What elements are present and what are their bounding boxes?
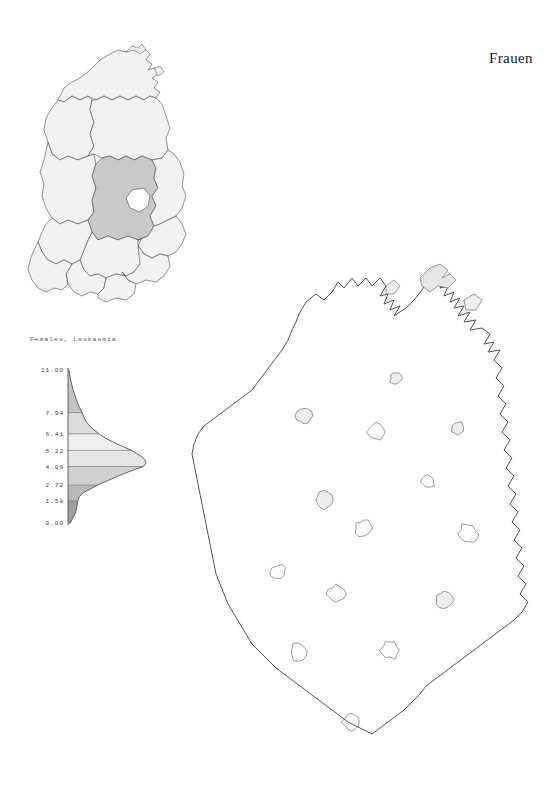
legend-tick-label: 7.94 [46, 410, 64, 417]
legend-tick-label: 6.41 [46, 431, 64, 438]
stadtkreis-enclave [295, 408, 313, 423]
legend-tick-label: 0.00 [46, 520, 64, 527]
legend-class-band-4 [68, 434, 132, 451]
inset-region-schwerin [44, 96, 94, 160]
legend-tick-label: 4.06 [46, 464, 64, 471]
figure-page: Frauen [0, 0, 557, 794]
national-border [192, 274, 528, 734]
stadtkreis-enclave [390, 373, 403, 384]
legend-tick-label: 2.72 [46, 482, 64, 489]
stadtkreis-enclave [341, 714, 359, 732]
stadtkreis-enclave [379, 642, 399, 660]
stadtkreis-enclave [326, 584, 347, 602]
stadtkreis-enclave [316, 490, 333, 510]
baltic-island [420, 264, 456, 292]
stadtkreis-enclave [458, 524, 480, 543]
legend-tick-label: 5.22 [46, 448, 64, 455]
kreis-polygons [270, 373, 479, 731]
stadtkreis-enclave [291, 643, 307, 662]
stadtkreis-enclave [367, 422, 386, 440]
legend-class-band-0 [68, 501, 78, 523]
stadtkreis-enclave [420, 475, 434, 487]
legend-tick-label: 11.00 [41, 367, 64, 374]
stadtkreis-enclave [436, 591, 454, 609]
choropleth-map-svg [128, 182, 552, 762]
inset-region-rostock [58, 48, 160, 102]
baltic-island [464, 294, 482, 310]
stadtkreis-enclave [452, 422, 464, 435]
stadtkreis-enclave [355, 520, 372, 537]
baltic-island [386, 280, 400, 294]
page-title: Frauen [489, 50, 533, 67]
legend-title: Females, Leukaemia [30, 336, 117, 343]
inset-region-neubrandenburg [88, 96, 170, 160]
choropleth-map [128, 182, 552, 762]
stadtkreis-enclave [270, 565, 286, 579]
legend-tick-label: 1.58 [46, 498, 64, 505]
